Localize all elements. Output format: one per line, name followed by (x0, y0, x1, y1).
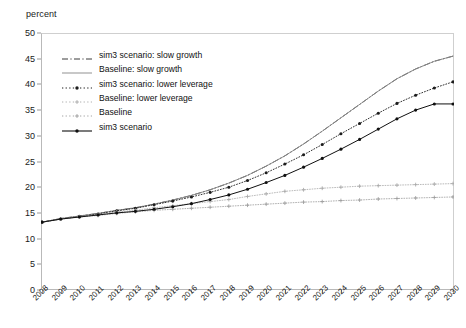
y-tick-label: 5 (11, 259, 35, 269)
legend-key-swatch (62, 50, 92, 60)
y-tick-label: 20 (11, 182, 35, 192)
legend-key-swatch (62, 79, 92, 89)
data-point-marker (283, 163, 286, 166)
legend-item[interactable]: sim3 scenario: slow growth (62, 48, 277, 62)
data-point-marker (395, 102, 398, 105)
data-point-marker (283, 201, 287, 205)
data-point-marker (358, 138, 361, 141)
legend-item-label: Baseline: slow growth (99, 64, 182, 74)
data-point-marker (265, 181, 268, 184)
y-tick-label: 25 (11, 157, 35, 167)
data-point-marker (190, 206, 194, 210)
data-point-marker (339, 148, 342, 151)
y-tick-label: 40 (11, 79, 35, 89)
data-point-marker (171, 205, 174, 208)
data-point-marker (190, 202, 193, 205)
data-point-marker (227, 204, 231, 208)
data-point-marker (246, 195, 250, 199)
chart-legend: sim3 scenario: slow growthBaseline: slow… (62, 48, 277, 134)
data-point-marker (414, 109, 417, 112)
y-tick-label: 15 (11, 208, 35, 218)
data-point-marker (320, 186, 324, 190)
data-point-marker (246, 179, 249, 182)
y-tick-label: 10 (11, 234, 35, 244)
data-point-marker (264, 202, 268, 206)
data-point-marker (115, 211, 118, 214)
data-point-marker (209, 191, 212, 194)
data-point-marker (451, 182, 454, 186)
y-tick-label: 45 (11, 54, 35, 64)
legend-key-swatch (62, 122, 92, 132)
legend-item-label: sim3 scenario: lower leverage (99, 79, 213, 89)
data-point-marker (377, 128, 380, 131)
data-point-marker (414, 94, 417, 97)
data-point-marker (339, 199, 343, 203)
data-point-marker (302, 153, 305, 156)
legend-item[interactable]: sim3 scenario: lower leverage (62, 77, 277, 91)
data-point-marker (414, 196, 418, 200)
data-point-marker (376, 197, 380, 201)
data-point-marker (433, 102, 436, 105)
data-point-marker (432, 196, 436, 200)
data-point-marker (134, 210, 137, 213)
data-point-marker (358, 184, 362, 188)
data-point-marker (246, 203, 250, 207)
y-tick-label: 35 (11, 105, 35, 115)
data-point-marker (227, 193, 230, 196)
data-point-marker (227, 186, 230, 189)
data-point-marker (302, 188, 306, 192)
data-point-marker (41, 221, 44, 224)
data-point-marker (395, 183, 399, 187)
data-point-marker (320, 200, 324, 204)
legend-key-swatch (62, 93, 92, 103)
data-point-marker (451, 195, 454, 199)
legend-item-label: sim3 scenario (99, 122, 152, 132)
data-point-marker (414, 183, 418, 187)
legend-key-swatch (62, 64, 92, 74)
data-point-marker (227, 198, 231, 202)
data-point-marker (59, 218, 62, 221)
data-point-marker (302, 166, 305, 169)
data-point-marker (339, 185, 343, 189)
data-point-marker (97, 213, 100, 216)
data-point-marker (208, 205, 212, 209)
data-point-marker (433, 86, 436, 89)
data-point-marker (283, 174, 286, 177)
data-point-marker (190, 195, 193, 198)
data-point-marker (376, 184, 380, 188)
data-point-marker (377, 112, 380, 115)
data-point-marker (358, 198, 362, 202)
y-tick-label: 0 (11, 285, 35, 295)
data-point-marker (265, 171, 268, 174)
data-point-marker (302, 200, 306, 204)
legend-item-label: sim3 scenario: slow growth (99, 50, 202, 60)
y-tick-label: 30 (11, 131, 35, 141)
data-point-marker (451, 80, 454, 83)
legend-item-label: Baseline (99, 107, 132, 117)
series-line (42, 197, 453, 222)
data-point-marker (78, 215, 81, 218)
data-point-marker (321, 143, 324, 146)
data-point-marker (339, 132, 342, 135)
data-point-marker (395, 117, 398, 120)
y-tick-label: 50 (11, 28, 35, 38)
data-point-marker (321, 157, 324, 160)
data-point-marker (153, 203, 156, 206)
legend-item[interactable]: Baseline: slow growth (62, 62, 277, 76)
data-point-marker (283, 189, 287, 193)
legend-item[interactable]: Baseline: lower leverage (62, 91, 277, 105)
legend-item[interactable]: Baseline (62, 105, 277, 119)
legend-item-label: Baseline: lower leverage (99, 93, 193, 103)
legend-item[interactable]: sim3 scenario (62, 119, 277, 133)
data-point-marker (171, 200, 174, 203)
data-point-marker (153, 208, 156, 211)
series-5 (41, 195, 454, 224)
data-point-marker (395, 197, 399, 201)
data-point-marker (432, 182, 436, 186)
data-point-marker (451, 102, 454, 105)
legend-key-swatch (62, 107, 92, 117)
data-point-marker (209, 198, 212, 201)
y-axis-unit-label: percent (26, 9, 57, 19)
data-point-marker (358, 122, 361, 125)
chart-container: percent 05101520253035404550 20082009201… (0, 0, 466, 328)
